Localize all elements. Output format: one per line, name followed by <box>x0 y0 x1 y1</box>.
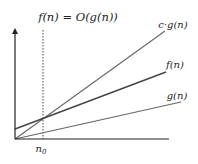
diagram-title: f(n) = O(g(n)) <box>37 10 118 24</box>
label-g: g(n) <box>167 90 188 101</box>
label-f: f(n) <box>165 59 184 70</box>
threshold-label-subscript: 0 <box>42 148 47 156</box>
threshold-label: n0 <box>36 143 47 156</box>
curve-f <box>15 72 166 129</box>
big-o-diagram: f(n) = O(g(n)) c·g(n) f(n) g(n) n0 <box>0 0 198 164</box>
label-c-g: c·g(n) <box>158 19 188 30</box>
